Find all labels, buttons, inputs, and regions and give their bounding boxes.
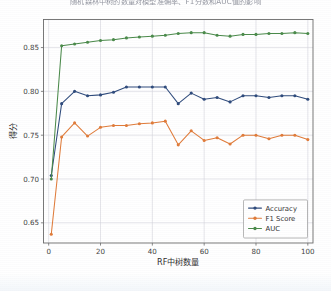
legend-label: AUC xyxy=(266,225,281,233)
data-point xyxy=(190,129,193,132)
x-axis-ticks: 020406080100 xyxy=(46,243,315,256)
series-accuracy xyxy=(50,85,310,177)
data-point xyxy=(164,120,167,123)
data-point xyxy=(177,143,180,146)
data-point xyxy=(99,39,102,42)
chart-plot-area: 020406080100 0.650.700.750.800.85 RF中树数量… xyxy=(0,0,331,291)
data-point xyxy=(99,126,102,129)
data-point xyxy=(267,137,270,140)
data-point xyxy=(151,35,154,38)
data-point xyxy=(216,96,219,99)
x-tick-label: 40 xyxy=(148,247,158,256)
data-point xyxy=(73,42,76,45)
data-point xyxy=(138,122,141,125)
y-tick-label: 0.65 xyxy=(23,218,39,227)
data-point xyxy=(86,135,89,138)
x-tick-label: 60 xyxy=(200,247,210,256)
y-tick-label: 0.85 xyxy=(23,43,39,52)
data-point xyxy=(241,94,244,97)
data-point xyxy=(203,98,206,101)
data-point xyxy=(50,233,53,236)
data-point xyxy=(112,91,115,94)
y-tick-label: 0.75 xyxy=(23,131,39,140)
x-tick-label: 0 xyxy=(46,247,51,256)
data-point xyxy=(60,44,63,47)
data-point xyxy=(229,142,232,145)
y-tick-label: 0.70 xyxy=(23,175,39,184)
series-auc xyxy=(50,31,310,180)
data-point xyxy=(267,96,270,99)
legend-label: Accuracy xyxy=(266,205,297,213)
data-point xyxy=(293,31,296,34)
data-point xyxy=(125,36,128,39)
y-axis-ticks: 0.650.700.750.800.85 xyxy=(23,43,43,227)
data-point xyxy=(267,32,270,35)
data-point xyxy=(60,102,63,105)
legend-marker xyxy=(253,227,256,230)
data-point xyxy=(50,177,53,180)
x-tick-label: 100 xyxy=(301,247,315,256)
data-point xyxy=(73,90,76,93)
data-point xyxy=(216,136,219,139)
chart-figure: 随机森林中树的数量对模型准确率、F1分数和AUC值的影响 02040608010… xyxy=(0,0,331,291)
data-point xyxy=(280,134,283,137)
data-point xyxy=(138,35,141,38)
data-point xyxy=(203,31,206,34)
data-point xyxy=(86,94,89,97)
data-point xyxy=(306,32,309,35)
chart-title: 随机森林中树的数量对模型准确率、F1分数和AUC值的影响 xyxy=(0,0,331,7)
data-point xyxy=(60,135,63,138)
data-point xyxy=(112,124,115,127)
data-point xyxy=(306,98,309,101)
data-point xyxy=(229,100,232,103)
data-point xyxy=(151,121,154,124)
data-point xyxy=(254,33,257,36)
legend-marker xyxy=(253,217,256,220)
data-point xyxy=(177,32,180,35)
data-point xyxy=(280,32,283,35)
data-point xyxy=(177,102,180,105)
data-point xyxy=(190,31,193,34)
data-point xyxy=(73,121,76,124)
data-point xyxy=(293,94,296,97)
data-point xyxy=(241,134,244,137)
chart-legend[interactable]: AccuracyF1 ScoreAUC xyxy=(244,200,308,238)
data-point xyxy=(216,34,219,37)
legend-label: F1 Score xyxy=(266,215,296,223)
y-tick-label: 0.80 xyxy=(23,87,39,96)
data-point xyxy=(138,85,141,88)
data-point xyxy=(241,33,244,36)
data-point xyxy=(293,134,296,137)
data-point xyxy=(280,94,283,97)
data-point xyxy=(99,93,102,96)
data-point xyxy=(151,85,154,88)
data-point xyxy=(254,94,257,97)
data-point xyxy=(125,124,128,127)
data-point xyxy=(125,85,128,88)
legend-marker xyxy=(253,206,256,209)
x-tick-label: 20 xyxy=(96,247,106,256)
data-point xyxy=(112,38,115,41)
data-point xyxy=(254,134,257,137)
data-point xyxy=(190,92,193,95)
x-axis-label: RF中树数量 xyxy=(157,257,199,267)
data-point xyxy=(164,34,167,37)
data-point xyxy=(86,41,89,44)
data-point xyxy=(306,138,309,141)
y-axis-label: 得分 xyxy=(8,123,18,139)
data-point xyxy=(229,35,232,38)
x-tick-label: 80 xyxy=(251,247,261,256)
data-point xyxy=(203,139,206,142)
data-point xyxy=(164,85,167,88)
